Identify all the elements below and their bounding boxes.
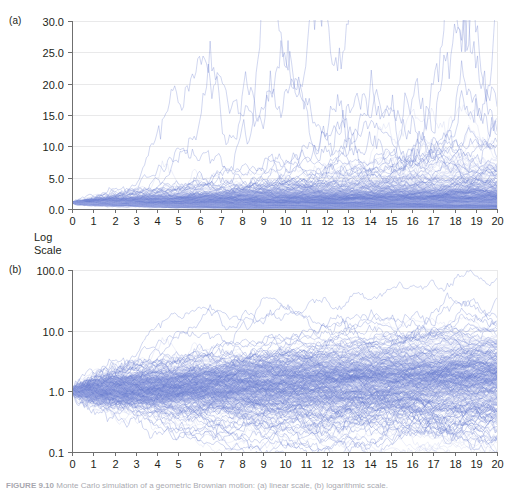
y-axis-tick-label: 0.0 bbox=[49, 204, 64, 216]
y-axis-tick-label: 30.0 bbox=[43, 16, 64, 28]
y-axis-tick-label: 20.0 bbox=[43, 79, 64, 91]
x-axis-tick-label: 5 bbox=[175, 215, 181, 227]
x-axis-tick-label: 0 bbox=[69, 215, 75, 227]
x-axis-tick-label: 6 bbox=[197, 215, 203, 227]
x-axis-tick-label: 18 bbox=[449, 215, 461, 227]
x-axis-tick-label: 19 bbox=[470, 458, 482, 470]
x-axis-tick-label: 10 bbox=[279, 215, 291, 227]
figure-caption-prefix: FIGURE 9.10 bbox=[6, 481, 54, 490]
x-axis-tick-label: 4 bbox=[154, 215, 160, 227]
linear-scale-plot: 0.05.010.015.020.025.030.001234567891011… bbox=[0, 0, 519, 232]
x-axis-tick-label: 5 bbox=[175, 458, 181, 470]
y-axis-tick-label: 10.0 bbox=[43, 326, 64, 338]
x-axis-tick-label: 8 bbox=[239, 458, 245, 470]
simulated-path bbox=[72, 0, 497, 203]
x-axis-tick-label: 16 bbox=[406, 458, 418, 470]
x-axis-tick-label: 3 bbox=[133, 458, 139, 470]
x-axis-tick-label: 2 bbox=[112, 215, 118, 227]
x-axis-tick-label: 4 bbox=[154, 458, 160, 470]
x-axis-tick-label: 13 bbox=[342, 458, 354, 470]
figure-root: (a) (b) Log Scale 0.05.010.015.020.025.0… bbox=[0, 0, 519, 490]
x-axis-tick-label: 20 bbox=[491, 458, 503, 470]
x-axis-tick-label: 2 bbox=[112, 458, 118, 470]
x-axis-tick-label: 18 bbox=[449, 458, 461, 470]
x-axis-tick-label: 7 bbox=[218, 215, 224, 227]
figure-caption-text: Monte Carlo simulation of a geometric Br… bbox=[56, 481, 388, 490]
y-axis-tick-label: 25.0 bbox=[43, 47, 64, 59]
y-axis-tick-label: 15.0 bbox=[43, 110, 64, 122]
x-axis-tick-label: 16 bbox=[406, 215, 418, 227]
x-axis-tick-label: 14 bbox=[364, 215, 376, 227]
log-scale-axis-label: Log Scale bbox=[34, 231, 62, 257]
x-axis-tick-label: 1 bbox=[90, 215, 96, 227]
x-axis-tick-label: 17 bbox=[427, 215, 439, 227]
x-axis-tick-label: 0 bbox=[69, 458, 75, 470]
figure-caption: FIGURE 9.10 Monte Carlo simulation of a … bbox=[6, 481, 514, 490]
x-axis-tick-label: 12 bbox=[321, 458, 333, 470]
x-axis-tick-label: 3 bbox=[133, 215, 139, 227]
y-axis-tick-label: 5.0 bbox=[49, 173, 64, 185]
simulated-path bbox=[72, 0, 497, 203]
x-axis-tick-label: 17 bbox=[427, 458, 439, 470]
x-axis-tick-label: 14 bbox=[364, 458, 376, 470]
y-axis-tick-label: 10.0 bbox=[43, 141, 64, 153]
x-axis-tick-label: 15 bbox=[385, 215, 397, 227]
chart-panel-linear: 0.05.010.015.020.025.030.001234567891011… bbox=[0, 0, 519, 232]
simulated-paths bbox=[72, 0, 497, 209]
x-axis-tick-label: 12 bbox=[321, 215, 333, 227]
x-axis-tick-label: 20 bbox=[491, 215, 503, 227]
x-axis-tick-label: 19 bbox=[470, 215, 482, 227]
y-axis-tick-label: 1.0 bbox=[49, 386, 64, 398]
y-axis-tick-label: 100.0 bbox=[36, 265, 64, 277]
log-scale-plot: 0.11.010.0100.00123456789101112131415161… bbox=[0, 255, 519, 480]
log-scale-label-line1: Log bbox=[34, 231, 62, 244]
chart-panel-log: 0.11.010.0100.00123456789101112131415161… bbox=[0, 255, 519, 480]
x-axis-tick-label: 10 bbox=[279, 458, 291, 470]
x-axis-tick-label: 1 bbox=[90, 458, 96, 470]
x-axis-tick-label: 7 bbox=[218, 458, 224, 470]
simulated-paths bbox=[72, 270, 497, 480]
x-axis-tick-label: 13 bbox=[342, 215, 354, 227]
x-axis-tick-label: 11 bbox=[301, 215, 312, 227]
x-axis-tick-label: 11 bbox=[301, 458, 312, 470]
x-axis-tick-label: 9 bbox=[260, 458, 266, 470]
y-axis-tick-label: 0.1 bbox=[49, 447, 64, 459]
x-axis-tick-label: 9 bbox=[260, 215, 266, 227]
x-axis-tick-label: 6 bbox=[197, 458, 203, 470]
x-axis-tick-label: 8 bbox=[239, 215, 245, 227]
x-axis-tick-label: 15 bbox=[385, 458, 397, 470]
